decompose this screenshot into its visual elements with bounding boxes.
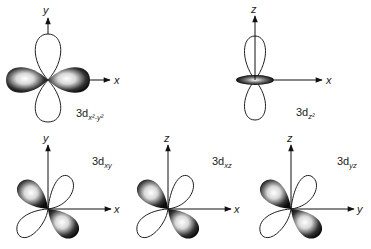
axis-label-x: x bbox=[113, 74, 120, 86]
lobe-down-outline bbox=[244, 80, 265, 120]
lobe-lower-right-shaded bbox=[168, 209, 199, 239]
lobe-lower-right-shaded bbox=[48, 209, 79, 239]
lobe-upper-left-shaded bbox=[137, 179, 168, 209]
lobe-lower-left-outline bbox=[17, 209, 48, 238]
lobe-lower-left-outline bbox=[260, 209, 291, 238]
lobe-upper-right-outline bbox=[291, 175, 317, 209]
axis-label-z: z bbox=[286, 132, 293, 144]
lobe-upper-left-shaded bbox=[17, 179, 48, 209]
axis-label-x: x bbox=[113, 203, 120, 215]
orbital-label: 3dyz bbox=[337, 155, 357, 170]
axis-label-y: y bbox=[42, 4, 50, 16]
axis-label-y: y bbox=[356, 203, 364, 215]
orbital-dx2-y2: y x 3dx²-y² bbox=[6, 4, 120, 122]
lobe-upper-left-shaded bbox=[260, 179, 291, 209]
axis-label-z: z bbox=[250, 3, 257, 15]
lobe-upper-right-outline bbox=[168, 175, 194, 209]
axis-label-z: z bbox=[163, 132, 170, 144]
orbital-dxz: z x 3dxz bbox=[137, 132, 240, 239]
orbital-dz2: z x 3dz² bbox=[236, 3, 332, 121]
axis-label-y: y bbox=[42, 132, 50, 144]
orbital-dxy: y x 3dxy bbox=[17, 132, 120, 239]
axis-label-x: x bbox=[233, 203, 240, 215]
orbital-label: 3dx²-y² bbox=[76, 107, 104, 122]
orbital-diagram: y x 3dx²-y² z x 3dz² y x 3dxy z x 3d bbox=[0, 0, 371, 249]
axis-label-x: x bbox=[325, 74, 332, 86]
orbital-dyz: z y 3dyz bbox=[260, 132, 364, 239]
orbital-label: 3dxz bbox=[212, 155, 232, 170]
orbital-label: 3dxy bbox=[92, 155, 113, 170]
orbital-label: 3dz² bbox=[296, 106, 315, 121]
lobe-lower-right-shaded bbox=[291, 209, 322, 239]
lobe-upper-right-outline bbox=[48, 175, 74, 209]
lobe-lower-left-outline bbox=[137, 209, 168, 238]
